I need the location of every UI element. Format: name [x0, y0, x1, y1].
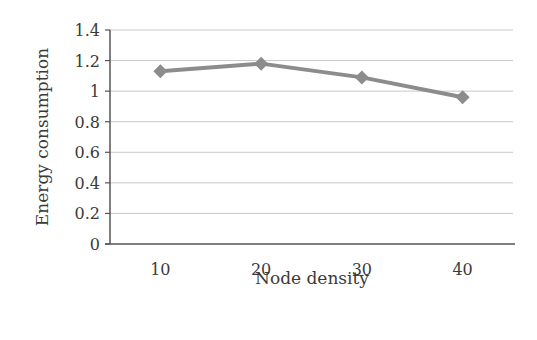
diamond-marker [153, 64, 167, 78]
y-tick-label: 0.2 [75, 204, 100, 223]
y-axis-ticks: 00.20.40.60.811.21.4 [75, 21, 110, 254]
y-tick-label: 1.4 [75, 21, 100, 40]
y-axis-title: Energy consumption [32, 48, 52, 226]
diamond-marker [355, 70, 369, 84]
x-tick-label: 10 [150, 260, 170, 279]
x-tick-label: 40 [452, 260, 472, 279]
y-tick-label: 1.2 [75, 52, 100, 71]
x-axis-title: Node density [255, 268, 369, 288]
y-tick-label: 0 [90, 235, 100, 254]
gridlines [110, 30, 513, 213]
data-series [153, 57, 469, 105]
y-tick-label: 0.8 [75, 113, 100, 132]
y-tick-label: 1 [90, 82, 100, 101]
y-tick-label: 0.4 [75, 174, 100, 193]
y-tick-label: 0.6 [75, 143, 100, 162]
diamond-marker [456, 90, 470, 104]
diamond-marker [254, 57, 268, 71]
line-chart: 00.20.40.60.811.21.4 10203040 Energy con… [0, 0, 537, 340]
series-line [160, 64, 462, 98]
